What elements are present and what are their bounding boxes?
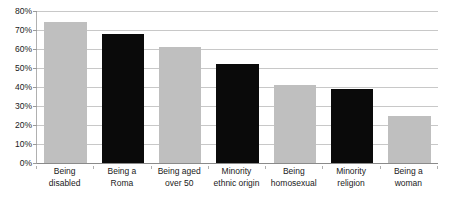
x-axis-category-label-line: Being a bbox=[93, 166, 150, 178]
x-axis-category-label-line: Being aged bbox=[151, 166, 208, 178]
x-axis-category-label-line: woman bbox=[380, 178, 437, 190]
x-axis-category-labels: BeingdisabledBeing aRomaBeing agedover 5… bbox=[36, 166, 437, 202]
x-axis-tick-mark bbox=[208, 166, 209, 169]
x-axis-category-label-line: Roma bbox=[93, 178, 150, 190]
x-axis-category-label-line: over 50 bbox=[151, 178, 208, 190]
bar-chart: 80%70%60%50%40%30%20%10%0% Beingdisabled… bbox=[0, 0, 451, 202]
x-axis-category-label-line: religion bbox=[322, 178, 379, 190]
y-axis-tick-label: 20% bbox=[0, 121, 32, 130]
x-axis-category-label-line: ethnic origin bbox=[208, 178, 265, 190]
y-axis-tick-label: 0% bbox=[0, 159, 32, 168]
bar bbox=[388, 116, 430, 164]
plot-area bbox=[36, 11, 438, 163]
bar bbox=[331, 89, 373, 163]
x-axis-category-label: Beinghomosexual bbox=[265, 166, 322, 189]
x-axis-category-label: Minorityethnic origin bbox=[208, 166, 265, 189]
x-axis-category-label: Beingdisabled bbox=[36, 166, 93, 189]
bar bbox=[44, 22, 86, 163]
y-axis-tick-label: 30% bbox=[0, 102, 32, 111]
x-axis-category-label: Being aRoma bbox=[93, 166, 150, 189]
y-axis-tick-label: 50% bbox=[0, 64, 32, 73]
x-axis-tick-mark bbox=[93, 166, 94, 169]
x-axis-category-label-line: disabled bbox=[36, 178, 93, 190]
y-axis-tick-label: 80% bbox=[0, 7, 32, 16]
y-axis-tick-label: 70% bbox=[0, 26, 32, 35]
x-axis-category-label-line: Minority bbox=[208, 166, 265, 178]
x-axis-category-label-line: Being a bbox=[380, 166, 437, 178]
y-axis-tick-label: 10% bbox=[0, 140, 32, 149]
x-axis-tick-mark bbox=[380, 166, 381, 169]
x-axis-tick-mark bbox=[36, 166, 37, 169]
x-axis-category-label: Being awoman bbox=[380, 166, 437, 189]
x-axis-category-label-line: homosexual bbox=[265, 178, 322, 190]
y-axis-tick-label: 60% bbox=[0, 45, 32, 54]
x-axis-category-label: Minorityreligion bbox=[322, 166, 379, 189]
bar bbox=[159, 47, 201, 163]
x-axis-tick-mark bbox=[151, 166, 152, 169]
x-axis-category-label: Being agedover 50 bbox=[151, 166, 208, 189]
y-axis: 80%70%60%50%40%30%20%10%0% bbox=[0, 0, 32, 202]
x-axis-tick-mark bbox=[322, 166, 323, 169]
bars-layer bbox=[37, 11, 438, 163]
x-axis-category-label-line: Being bbox=[265, 166, 322, 178]
y-axis-tick-label: 40% bbox=[0, 83, 32, 92]
bar bbox=[274, 85, 316, 163]
bar bbox=[102, 34, 144, 163]
bar bbox=[216, 64, 258, 163]
x-axis-category-label-line: Being bbox=[36, 166, 93, 178]
x-axis-category-label-line: Minority bbox=[322, 166, 379, 178]
x-axis-line bbox=[37, 163, 438, 164]
x-axis-tick-mark bbox=[437, 166, 438, 169]
x-axis-tick-mark bbox=[265, 166, 266, 169]
